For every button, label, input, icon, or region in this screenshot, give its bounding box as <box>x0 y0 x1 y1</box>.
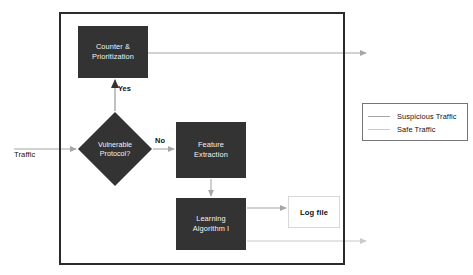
node-vulnerable-protocol-label: Vulnerable Protocol? <box>78 112 152 186</box>
node-learning-algorithm-label: Learning Algorithm I <box>193 214 229 233</box>
edge-label-no: No <box>155 136 165 145</box>
node-log-file-label: Log file <box>300 208 328 217</box>
node-learning-algorithm[interactable]: Learning Algorithm I <box>176 198 246 250</box>
node-counter-prioritization[interactable]: Counter & Prioritization <box>78 26 148 78</box>
legend-swatch-suspicious <box>368 116 390 117</box>
legend-label-suspicious: Suspicious Traffic <box>397 112 457 121</box>
node-feature-extraction[interactable]: Feature Extraction <box>176 122 246 178</box>
node-vulnerable-protocol[interactable]: Vulnerable Protocol? <box>78 112 152 186</box>
legend-item-safe-traffic: Safe Traffic <box>363 123 467 136</box>
input-label-traffic: Traffic <box>14 150 35 159</box>
edge-label-yes: Yes <box>118 84 131 93</box>
node-log-file[interactable]: Log file <box>288 196 340 228</box>
legend-label-safe: Safe Traffic <box>397 125 435 134</box>
legend: Suspicious Traffic Safe Traffic <box>362 103 468 141</box>
node-counter-prioritization-label: Counter & Prioritization <box>92 42 134 61</box>
legend-item-suspicious-traffic: Suspicious Traffic <box>363 110 467 123</box>
node-feature-extraction-label: Feature Extraction <box>194 140 228 159</box>
legend-swatch-safe <box>368 129 390 130</box>
diagram-canvas: Counter & Prioritization Vulnerable Prot… <box>0 0 473 275</box>
